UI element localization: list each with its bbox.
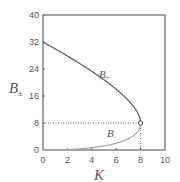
y-tick-label: 8 xyxy=(34,118,39,128)
plot-frame xyxy=(43,15,165,150)
y-tick-label: 24 xyxy=(29,64,39,74)
turning-point-marker xyxy=(138,121,142,125)
y-axis-label: B± xyxy=(9,80,23,98)
y-tick-label: 0 xyxy=(34,145,39,155)
y-tick-label: 40 xyxy=(29,10,39,20)
b-minus-curve xyxy=(43,123,141,150)
b-minus-label: B- xyxy=(107,127,116,140)
b-plus-label: B+ xyxy=(99,68,110,81)
chart: 40 32 24 16 8 0 0 2 4 6 8 10 B+ B- B± K xyxy=(0,0,180,182)
x-tick-label: 0 xyxy=(40,155,45,165)
x-tick-label: 8 xyxy=(138,155,143,165)
x-tick-label: 2 xyxy=(65,155,70,165)
b-plus-curve xyxy=(43,42,141,123)
x-axis-label: K xyxy=(93,167,105,182)
x-tick-label: 6 xyxy=(114,155,119,165)
x-tick-label: 4 xyxy=(89,155,94,165)
y-tick-label: 16 xyxy=(29,91,39,101)
y-tick-label: 32 xyxy=(29,37,39,47)
x-tick-label: 10 xyxy=(160,155,170,165)
